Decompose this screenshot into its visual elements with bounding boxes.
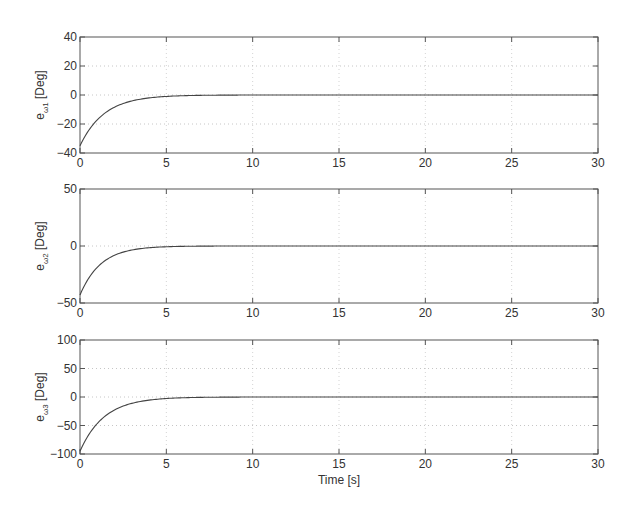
- y-axis-label: eω1 [Deg]: [33, 70, 50, 119]
- y-tick-label: −50: [57, 296, 78, 310]
- subplot-3: 051015202530100500−50−100eω3 [Deg]Time […: [33, 333, 605, 487]
- y-tick-label: 0: [70, 390, 77, 404]
- x-tick-label: 10: [246, 156, 260, 170]
- y-tick-label: −40: [57, 146, 78, 160]
- x-tick-label: 0: [77, 306, 84, 320]
- x-tick-label: 5: [163, 156, 170, 170]
- y-tick-label: 0: [70, 239, 77, 253]
- subplot-1: 05101520253040200−20−40eω1 [Deg]: [33, 30, 605, 170]
- y-tick-label: 100: [57, 333, 77, 347]
- y-tick-label: 50: [64, 362, 78, 376]
- subplot-2: 051015202530500−50eω2 [Deg]: [33, 182, 605, 320]
- y-tick-label: 0: [70, 88, 77, 102]
- x-tick-label: 15: [332, 457, 346, 471]
- x-tick-label: 25: [505, 457, 519, 471]
- x-tick-label: 0: [77, 156, 84, 170]
- x-tick-label: 30: [591, 306, 605, 320]
- x-tick-label: 10: [246, 306, 260, 320]
- x-axis-label: Time [s]: [318, 473, 360, 487]
- y-tick-label: 40: [64, 30, 78, 44]
- x-tick-label: 15: [332, 156, 346, 170]
- x-tick-label: 5: [163, 306, 170, 320]
- y-tick-label: −50: [57, 419, 78, 433]
- x-tick-label: 25: [505, 306, 519, 320]
- series-line: [80, 95, 598, 146]
- chart-figure: 05101520253040200−20−40eω1 [Deg]05101520…: [0, 0, 635, 506]
- x-tick-label: 15: [332, 306, 346, 320]
- x-tick-label: 20: [419, 457, 433, 471]
- x-tick-label: 0: [77, 457, 84, 471]
- x-tick-label: 30: [591, 156, 605, 170]
- x-tick-label: 25: [505, 156, 519, 170]
- x-tick-label: 20: [419, 306, 433, 320]
- y-tick-label: 20: [64, 59, 78, 73]
- x-tick-label: 10: [246, 457, 260, 471]
- y-tick-label: −20: [57, 117, 78, 131]
- y-tick-label: 50: [64, 182, 78, 196]
- y-axis-label: eω2 [Deg]: [33, 221, 50, 270]
- x-tick-label: 30: [591, 457, 605, 471]
- y-axis-label: eω3 [Deg]: [33, 372, 50, 421]
- x-tick-label: 5: [163, 457, 170, 471]
- x-tick-label: 20: [419, 156, 433, 170]
- y-tick-label: −100: [50, 447, 77, 461]
